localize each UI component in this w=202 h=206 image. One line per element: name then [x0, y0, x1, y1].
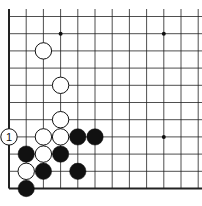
- black-stone: [35, 163, 51, 179]
- white-stone: [52, 112, 68, 128]
- white-stone: [35, 43, 51, 59]
- white-stone: [18, 163, 34, 179]
- go-board: 1: [0, 0, 202, 206]
- white-stone: [52, 77, 68, 93]
- white-stone: [35, 146, 51, 162]
- white-stone-disc: [18, 163, 34, 179]
- black-stone: [18, 146, 34, 162]
- black-stone-disc: [70, 163, 86, 179]
- move-number-label: 1: [6, 131, 12, 143]
- white-stone: [35, 129, 51, 145]
- board-grid: [9, 9, 202, 189]
- star-point: [162, 135, 166, 139]
- black-stone-disc: [35, 163, 51, 179]
- white-stone-disc: [35, 43, 51, 59]
- white-stone-disc: [52, 77, 68, 93]
- black-stone-disc: [52, 146, 68, 162]
- black-stone: [70, 163, 86, 179]
- white-stone: 1: [1, 129, 17, 145]
- black-stone-disc: [18, 180, 34, 196]
- black-stone: [87, 129, 103, 145]
- black-stone: [70, 129, 86, 145]
- black-stone: [18, 180, 34, 196]
- white-stone-disc: [52, 112, 68, 128]
- white-stone-disc: [52, 129, 68, 145]
- white-stone-disc: [35, 146, 51, 162]
- white-stone-disc: [35, 129, 51, 145]
- black-stone: [52, 146, 68, 162]
- black-stone-disc: [70, 129, 86, 145]
- star-point: [162, 32, 166, 36]
- star-point: [59, 32, 63, 36]
- black-stone-disc: [18, 146, 34, 162]
- black-stone-disc: [87, 129, 103, 145]
- white-stone: [52, 129, 68, 145]
